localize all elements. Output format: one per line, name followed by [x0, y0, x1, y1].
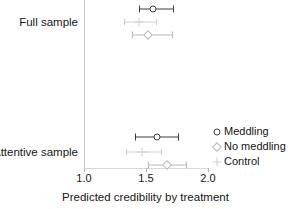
plot-area: 1.01.52.0 Full sampleAttentive sample Pr… — [0, 0, 291, 209]
open-circle-icon — [154, 134, 161, 141]
plus-icon — [134, 18, 143, 27]
ci-cap-low — [126, 149, 127, 156]
ci-cap-low — [139, 6, 140, 13]
ci-cap-high — [172, 32, 173, 39]
estimate-row — [0, 3, 291, 15]
open-diamond-icon — [162, 160, 172, 170]
legend-label: No meddling — [224, 140, 286, 153]
legend-item-meddling[interactable]: Meddling — [210, 124, 286, 139]
legend-symbol — [210, 155, 224, 169]
legend-item-control[interactable]: Control — [210, 154, 286, 169]
ci-cap-high — [161, 149, 162, 156]
legend-symbol — [210, 140, 224, 154]
legend-symbol — [210, 125, 224, 139]
open-circle-icon — [214, 128, 221, 135]
coefficient-plot: 1.01.52.0 Full sampleAttentive sample Pr… — [0, 0, 291, 209]
open-diamond-icon — [144, 30, 154, 40]
open-diamond-icon — [212, 142, 222, 152]
estimate-row — [0, 16, 291, 28]
open-circle-icon — [150, 6, 157, 13]
legend-label: Control — [224, 155, 259, 168]
legend-item-no-meddling[interactable]: No meddling — [210, 139, 286, 154]
ci-cap-low — [148, 162, 149, 169]
x-tick-label: 2.0 — [200, 172, 215, 185]
ci-cap-high — [186, 162, 187, 169]
ci-cap-high — [173, 6, 174, 13]
ci-cap-high — [178, 134, 179, 141]
ci-cap-low — [124, 19, 125, 26]
ci-cap-low — [135, 134, 136, 141]
x-tick-label: 1.0 — [76, 172, 91, 185]
x-tick-label: 1.5 — [138, 172, 153, 185]
legend-label: Meddling — [224, 125, 269, 138]
plus-icon — [138, 148, 147, 157]
ci-cap-low — [132, 32, 133, 39]
plus-icon — [213, 157, 222, 166]
estimate-row — [0, 29, 291, 41]
legend: MeddlingNo meddlingControl — [210, 124, 286, 169]
ci-cap-high — [156, 19, 157, 26]
x-axis-title: Predicted credibility by treatment — [0, 190, 291, 204]
